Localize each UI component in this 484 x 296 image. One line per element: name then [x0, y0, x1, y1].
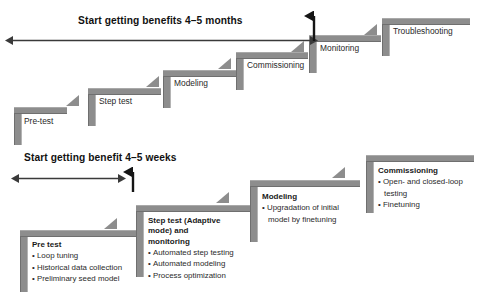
top-step-label-commissioning: Commissioning — [247, 60, 304, 70]
bullet-glyph: • — [32, 274, 35, 283]
bullet-glyph: • — [32, 263, 35, 272]
bullet-text: Preliminary seed model — [37, 274, 119, 283]
step-vertical-bar — [250, 180, 258, 242]
top-step-label-step-test: Step test — [99, 96, 132, 106]
rise-triangle-icon — [332, 167, 345, 178]
step-bullet-list: • Open- and closed-loop testing • Finetu… — [378, 176, 463, 210]
step-horizontal-bar — [136, 205, 252, 212]
rise-triangle-icon — [104, 218, 117, 229]
step-title: Modeling — [262, 192, 339, 202]
bullet-text: Process optimization — [153, 271, 226, 280]
bullet-glyph: • — [148, 248, 151, 257]
bottom-step-content-step-test: Step test (Adaptive mode) and monitoring… — [148, 216, 234, 281]
step-bullet-list: • Upgradation of initial model by finetu… — [262, 202, 339, 224]
step-horizontal-bar — [250, 180, 360, 187]
rise-triangle-icon — [216, 192, 229, 203]
bottom-step-content-pre-test: Pre test • Loop tuning • Historical data… — [32, 240, 122, 284]
top-step-monitoring — [309, 35, 381, 73]
bullet-text: testing — [384, 189, 407, 198]
bottom-step-content-modeling: Modeling • Upgradation of initial model … — [262, 192, 339, 225]
top-step-label-troubleshooting: Troubleshooting — [393, 26, 453, 36]
bullet-glyph: • — [148, 259, 151, 268]
top-step-label-modeling: Modeling — [174, 78, 208, 88]
top-step-step-test — [88, 88, 161, 126]
step-title-line: monitoring — [148, 237, 234, 247]
step-horizontal-bar — [88, 88, 161, 95]
step-horizontal-bar — [236, 52, 308, 59]
step-vertical-bar — [20, 230, 28, 292]
step-horizontal-bar — [382, 18, 470, 25]
step-horizontal-bar — [366, 155, 474, 162]
top-step-commissioning — [236, 52, 308, 90]
step-title: Pre test — [32, 240, 122, 250]
step-bullet-list: • Automated step testing • Automated mod… — [148, 247, 234, 281]
step-title: Step test (Adaptive mode) and monitoring — [148, 216, 234, 247]
bullet-glyph: • — [378, 200, 381, 209]
step-horizontal-bar — [20, 230, 137, 237]
top-step-label-pre-test: Pre-test — [24, 116, 53, 126]
step-title-line: Step test (Adaptive — [148, 216, 234, 226]
rise-triangle-icon — [66, 95, 79, 106]
top-benefit-banner: Start getting benefits 4–5 months — [78, 15, 243, 26]
rise-triangle-icon — [291, 41, 304, 52]
top-step-modeling — [163, 70, 236, 108]
top-step-troubleshooting — [382, 18, 470, 56]
rise-triangle-icon — [218, 58, 231, 69]
step-horizontal-bar — [309, 35, 381, 42]
step-vertical-bar — [366, 155, 374, 213]
bullet-glyph: • — [148, 271, 151, 280]
rise-triangle-icon — [146, 76, 159, 87]
step-title: Commissioning — [378, 166, 463, 176]
bullet-text: Automated modeling — [153, 259, 225, 268]
step-horizontal-bar — [14, 107, 67, 114]
bullet-text: Finetuning — [383, 200, 420, 209]
step-title-line: mode) and — [148, 226, 234, 236]
bullet-glyph: • — [32, 251, 35, 260]
top-step-label-monitoring: Monitoring — [320, 43, 359, 53]
step-vertical-bar — [136, 205, 144, 277]
bullet-text: Loop tuning — [37, 251, 78, 260]
rise-triangle-icon — [364, 24, 377, 35]
step-horizontal-bar — [163, 70, 236, 77]
bullet-text: Open- and closed-loop — [383, 177, 463, 186]
bullet-glyph: • — [378, 177, 381, 186]
bullet-glyph: • — [262, 203, 265, 212]
bottom-step-content-commissioning: Commissioning • Open- and closed-loop te… — [378, 166, 463, 210]
bullet-text: Upgradation of initial — [267, 203, 339, 212]
bottom-benefit-banner: Start getting benefit 4–5 weeks — [24, 152, 177, 163]
diagram-canvas: Start getting benefits 4–5 months Pre-te… — [0, 0, 484, 296]
bullet-text: Automated step testing — [153, 248, 234, 257]
bullet-text: model by finetuning — [268, 215, 336, 224]
step-bullet-list: • Loop tuning • Historical data collecti… — [32, 250, 122, 284]
bullet-text: Historical data collection — [37, 263, 122, 272]
